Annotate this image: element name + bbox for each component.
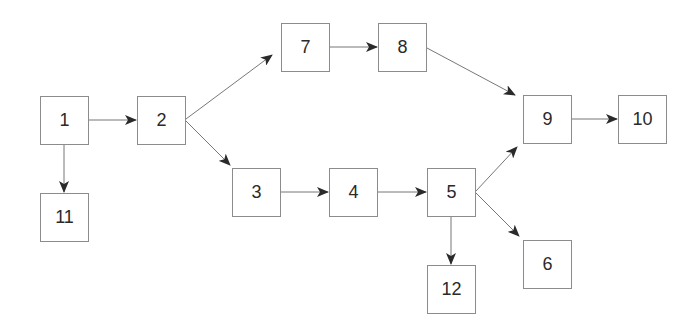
node-7: 7 — [281, 23, 330, 72]
edge-2-3 — [186, 121, 230, 165]
node-3: 3 — [232, 168, 281, 217]
node-5: 5 — [427, 168, 476, 217]
node-8: 8 — [378, 23, 427, 72]
node-10: 10 — [618, 95, 667, 144]
node-12: 12 — [427, 265, 476, 314]
node-6: 6 — [523, 240, 572, 289]
edge-8-9 — [427, 48, 515, 95]
edge-2-7 — [186, 55, 272, 119]
flow-diagram: 1 2 7 8 9 10 11 3 4 5 12 6 — [0, 0, 700, 332]
edges-layer — [0, 0, 700, 332]
node-1: 1 — [40, 96, 89, 145]
node-4: 4 — [329, 168, 378, 217]
node-11: 11 — [40, 193, 89, 242]
edge-5-9 — [476, 147, 517, 191]
node-9: 9 — [523, 95, 572, 144]
node-2: 2 — [137, 96, 186, 145]
edge-5-6 — [476, 193, 519, 236]
